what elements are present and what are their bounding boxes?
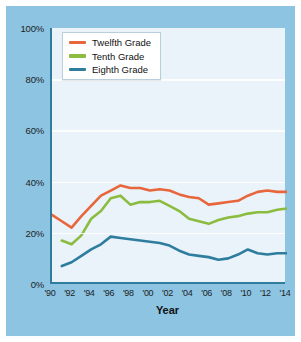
gridline — [52, 182, 285, 184]
y-axis-tick-label: 80% — [6, 74, 44, 85]
x-axis-tick-label: '90 — [45, 288, 56, 298]
legend-swatch-icon — [69, 68, 86, 71]
x-axis-tick-label: '02 — [162, 288, 173, 298]
x-axis-tick-label: '08 — [221, 288, 232, 298]
legend-item: Tenth Grade — [69, 51, 151, 62]
legend-item: Twelfth Grade — [69, 37, 151, 48]
legend-label: Eighth Grade — [92, 64, 148, 75]
y-axis-tick-label: 40% — [6, 176, 44, 187]
gridline — [52, 130, 285, 132]
series-line-eighth-grade — [62, 237, 287, 266]
gridline — [52, 233, 285, 235]
x-axis-tick-label: '04 — [182, 288, 193, 298]
legend-swatch-icon — [69, 54, 86, 57]
x-axis-title: Year — [50, 304, 285, 316]
x-axis-tick-label: '92 — [64, 288, 75, 298]
x-axis-tick-label: '14 — [280, 288, 291, 298]
x-axis-tick-label: '94 — [84, 288, 95, 298]
y-axis-tick-label: 20% — [6, 227, 44, 238]
chart-figure: 0%20%40%60%80%100% Twelfth GradeTenth Gr… — [6, 6, 295, 336]
legend-label: Tenth Grade — [92, 51, 144, 62]
legend-swatch-icon — [69, 41, 86, 44]
x-axis-labels: '90'92'94'96'98'00'02'04'06'08'10'12'14 — [50, 288, 285, 302]
chart-legend: Twelfth GradeTenth GradeEighth Grade — [62, 32, 161, 80]
y-axis-tick-label: 100% — [6, 23, 44, 34]
x-axis-tick-label: '12 — [260, 288, 271, 298]
x-axis-tick-label: '98 — [123, 288, 134, 298]
x-axis-tick-label: '96 — [103, 288, 114, 298]
x-axis-tick-label: '06 — [201, 288, 212, 298]
y-axis-tick-label: 0% — [6, 279, 44, 290]
legend-label: Twelfth Grade — [92, 37, 151, 48]
y-axis-tick-label: 60% — [6, 125, 44, 136]
x-axis-tick-label: '00 — [142, 288, 153, 298]
x-axis-tick-label: '10 — [240, 288, 251, 298]
legend-item: Eighth Grade — [69, 64, 151, 75]
